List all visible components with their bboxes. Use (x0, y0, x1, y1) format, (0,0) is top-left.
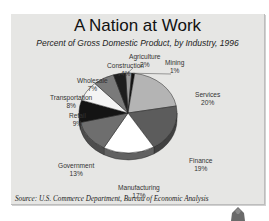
label-wholesale: Wholesale7% (77, 77, 108, 93)
label-retail: Retail9% (69, 112, 86, 128)
label-transportation: Transportation8% (50, 94, 92, 110)
source-note: Source: U.S. Commerce Department, Bureau… (15, 195, 209, 203)
pie-chart (11, 14, 264, 204)
decorative-emblem-icon (227, 205, 249, 221)
label-mining: Mining1% (165, 59, 184, 75)
label-finance: Finance19% (189, 157, 212, 173)
chart-panel: A Nation at Work Percent of Gross Domest… (11, 14, 265, 205)
label-construction: Construction4% (107, 62, 144, 78)
label-services: Services20% (195, 91, 220, 107)
label-government: Government13% (58, 162, 94, 178)
